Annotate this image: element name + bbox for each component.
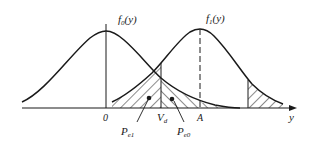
dot-pe1 — [147, 96, 152, 101]
tick-label-a: A — [196, 112, 204, 123]
label-f1: f1(y) — [206, 12, 225, 26]
label-f0: f0(y) — [118, 13, 137, 27]
axis-label-y: y — [288, 111, 294, 123]
label-vd: Vd — [157, 111, 168, 125]
region-pe0 — [161, 78, 232, 108]
label-pe0: Pe0 — [176, 125, 191, 139]
dot-pe0 — [170, 97, 175, 102]
diagram-canvas: f0(y) f1(y) 0 A Vd y Pe1 Pe0 — [0, 0, 314, 150]
tick-label-0: 0 — [103, 112, 108, 123]
label-pe1: Pe1 — [120, 125, 134, 139]
